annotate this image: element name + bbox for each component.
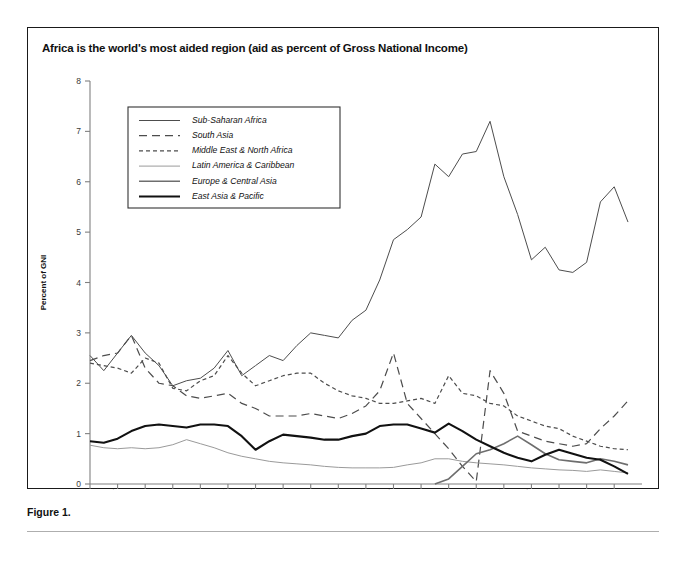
x-tick-label: 1993 <box>459 488 478 490</box>
x-tick-label: 1975 <box>210 488 229 490</box>
x-axis: 1965196719691971197319751977197919811983… <box>72 484 642 490</box>
legend-label-1: Sub-Saharan Africa <box>192 115 267 125</box>
x-tick-label: 1995 <box>486 488 505 490</box>
legend-label-5: Europe & Central Asia <box>192 176 277 186</box>
x-tick-label: 1979 <box>266 488 285 490</box>
y-tick-label: 0 <box>76 479 81 489</box>
x-tick-label: 1999 <box>541 488 560 490</box>
figure-page: Africa is the world's most aided region … <box>0 0 689 562</box>
y-tick-label: 2 <box>76 378 81 388</box>
footer-divider <box>27 531 659 532</box>
legend-label-3: Middle East & North Africa <box>192 145 293 155</box>
y-tick-label: 6 <box>76 177 81 187</box>
y-tick-label: 1 <box>76 429 81 439</box>
chart-legend[interactable]: Sub-Saharan AfricaSouth AsiaMiddle East … <box>128 107 340 208</box>
series-line-latin-america-caribbean <box>90 440 628 473</box>
figure-frame: Africa is the world's most aided region … <box>27 27 659 489</box>
y-tick-label: 4 <box>76 278 81 288</box>
x-tick-label: 1973 <box>183 488 202 490</box>
y-tick-label: 5 <box>76 227 81 237</box>
legend-label-4: Latin America & Caribbean <box>192 160 295 170</box>
x-tick-label: 1987 <box>376 488 395 490</box>
x-tick-label: 1969 <box>128 488 147 490</box>
legend-label-6: East Asia & Pacific <box>192 191 265 201</box>
x-tick-label: 1985 <box>348 488 367 490</box>
y-axis-title: Percent of GNI <box>39 255 48 311</box>
y-tick-label: 3 <box>76 328 81 338</box>
x-tick-label: 1997 <box>514 488 533 490</box>
x-tick-label: 1989 <box>404 488 423 490</box>
x-tick-label: 1971 <box>155 488 174 490</box>
y-tick-label: 7 <box>76 126 81 136</box>
y-axis: 012345678Percent of GNI <box>39 76 90 489</box>
line-chart: 012345678Percent of GNI 1965196719691971… <box>28 28 660 490</box>
x-tick-label: 1991 <box>431 488 450 490</box>
series-line-south-asia <box>90 335 628 481</box>
x-tick-label: 1977 <box>238 488 257 490</box>
x-tick-label: 1983 <box>321 488 340 490</box>
x-tick-label: 1967 <box>100 488 119 490</box>
series-line-east-asia-pacific <box>90 424 628 474</box>
y-tick-label: 8 <box>76 76 81 86</box>
chart-plot-area: 012345678Percent of GNI 1965196719691971… <box>28 28 660 490</box>
x-tick-label: 2001 <box>569 488 588 490</box>
figure-caption: Figure 1. <box>27 506 71 518</box>
x-tick-label: 2003 <box>597 488 616 490</box>
legend-label-2: South Asia <box>192 130 233 140</box>
x-tick-label: 1981 <box>293 488 312 490</box>
